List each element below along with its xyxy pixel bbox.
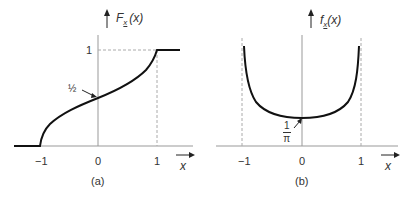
ylabel-a: Fx(x) <box>116 12 143 27</box>
xtick-b-0: 0 <box>299 156 305 167</box>
caption-b: (b) <box>295 176 308 187</box>
panel-a-plot <box>14 9 195 158</box>
xtick-a-neg1: −1 <box>35 156 48 167</box>
ylabel-b-arg: (x) <box>327 13 341 27</box>
y-arrow-a-head <box>104 9 110 16</box>
xlabel-b: x <box>385 160 391 172</box>
x-arrow-b-head <box>394 152 400 158</box>
half-pointer-head <box>91 93 97 98</box>
xtick-b-neg1: −1 <box>238 156 251 167</box>
x-arrow-a-head <box>189 152 195 158</box>
xlabel-a: x <box>180 160 186 172</box>
ylabel-a-sub: x <box>123 18 127 27</box>
inv-pi-numerator: 1 <box>283 121 291 133</box>
figure-canvas <box>0 0 407 197</box>
xtick-a-0: 0 <box>95 156 101 167</box>
inv-pi-denominator: π <box>283 133 291 144</box>
ylabel-b: fx(x) <box>320 14 341 29</box>
panel-b-plot <box>216 9 400 158</box>
xtick-a-1: 1 <box>154 156 160 167</box>
annotation-half: ½ <box>68 84 76 94</box>
caption-a: (a) <box>91 176 104 187</box>
ytick-a-1: 1 <box>86 45 92 56</box>
annotation-inv-pi: 1 π <box>283 121 291 144</box>
y-arrow-b-head <box>308 9 314 16</box>
cdf-curve <box>14 50 180 146</box>
xtick-b-1: 1 <box>358 156 364 167</box>
ylabel-a-arg: (x) <box>129 11 143 25</box>
